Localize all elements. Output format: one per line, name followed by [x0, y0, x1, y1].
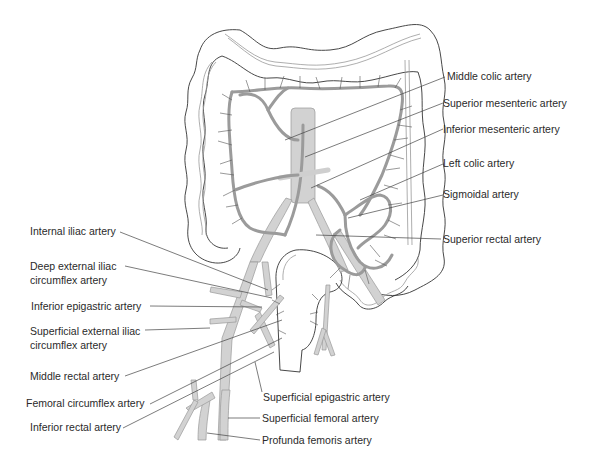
label-superficial-external-iliac-circumflex-artery: Superficial external iliac circumflex ar…	[30, 324, 150, 352]
label-middle-rectal-artery: Middle rectal artery	[30, 369, 119, 383]
label-femoral-circumflex-artery: Femoral circumflex artery	[26, 396, 144, 410]
label-profunda-femoris-artery: Profunda femoris artery	[262, 433, 372, 447]
label-middle-colic-artery: Middle colic artery	[447, 69, 532, 83]
label-superior-rectal-artery: Superior rectal artery	[443, 232, 541, 246]
label-internal-iliac-artery: Internal iliac artery	[30, 224, 116, 238]
label-deep-external-iliac-circumflex-artery: Deep external iliac circumflex artery	[30, 259, 130, 287]
label-inferior-mesenteric-artery: Inferior mesenteric artery	[443, 122, 560, 136]
label-left-colic-artery: Left colic artery	[443, 156, 514, 170]
label-inferior-epigastric-artery: Inferior epigastric artery	[31, 299, 141, 313]
label-superficial-femoral-artery: Superficial femoral artery	[262, 411, 379, 425]
mesenteric-arteries	[229, 86, 403, 275]
label-sigmoidal-artery: Sigmoidal artery	[443, 187, 519, 201]
label-inferior-rectal-artery: Inferior rectal artery	[30, 420, 121, 434]
label-superior-mesenteric-artery: Superior mesenteric artery	[443, 96, 567, 110]
label-superficial-epigastric-artery: Superficial epigastric artery	[263, 390, 390, 404]
